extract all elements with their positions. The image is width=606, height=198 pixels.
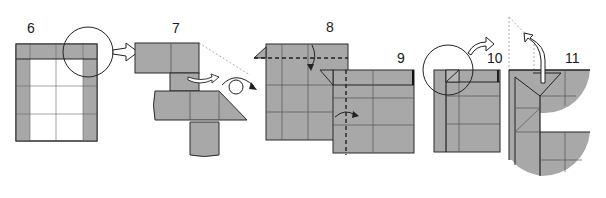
step-9-figure bbox=[320, 70, 414, 155]
step-10-figure bbox=[423, 37, 500, 152]
step-7-figure bbox=[135, 43, 257, 157]
origami-diagram: 6 7 8 9 10 11 bbox=[0, 0, 606, 198]
diagram-drawing bbox=[0, 0, 606, 198]
turn-over-icon bbox=[222, 78, 257, 94]
enlarge-arrow-icon bbox=[468, 37, 494, 55]
enlarge-arrow-icon bbox=[113, 43, 138, 61]
step-6-figure bbox=[16, 27, 113, 141]
step-11-figure bbox=[509, 17, 590, 176]
